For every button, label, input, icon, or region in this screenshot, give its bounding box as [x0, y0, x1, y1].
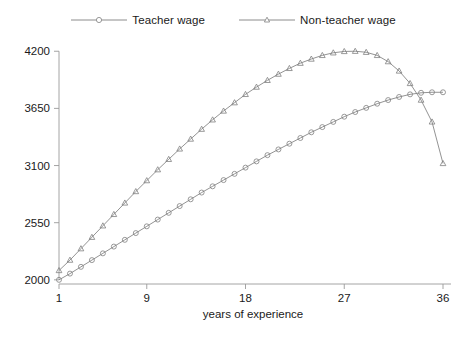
y-axis-tick-label: 3100	[24, 160, 50, 172]
x-axis-tick-label: 18	[239, 292, 252, 304]
series-teacher-wage	[57, 90, 446, 283]
x-axis-tick-label: 36	[437, 292, 450, 304]
x-axis-tick-label: 27	[338, 292, 351, 304]
y-axis-tick-label: 2550	[24, 217, 50, 229]
y-axis-tick-label: 4200	[24, 45, 50, 57]
x-axis-tick-label: 1	[56, 292, 62, 304]
figure-container: Teacher wage Non-teacher wage 2000255031…	[0, 0, 467, 344]
series-non-teacher-wage	[56, 48, 446, 272]
data-series-group	[56, 48, 446, 282]
x-axis-title: years of experience	[203, 308, 303, 320]
x-axis: 19182736	[56, 284, 451, 304]
chart-plot-area: 20002550310036504200 19182736 years of e…	[0, 0, 467, 344]
y-axis: 20002550310036504200	[24, 45, 59, 286]
y-axis-tick-label: 2000	[24, 274, 50, 286]
x-axis-tick-label: 9	[144, 292, 150, 304]
y-axis-tick-label: 3650	[24, 102, 50, 114]
